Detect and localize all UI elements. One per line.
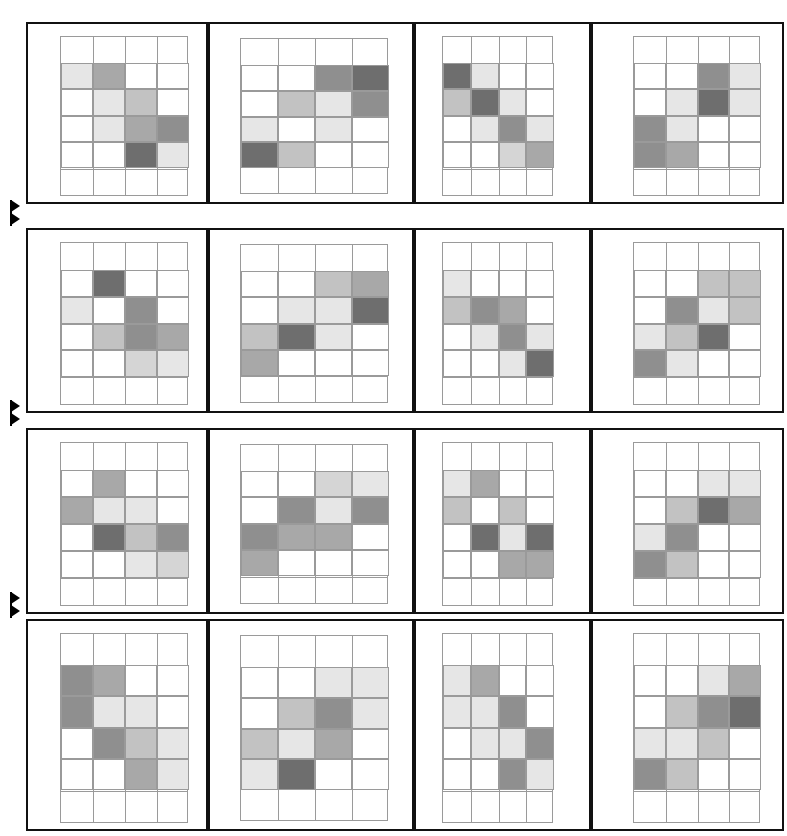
heatmap-cell[interactable]	[125, 297, 157, 324]
heatmap-cell[interactable]	[241, 550, 278, 576]
heatmap-cell[interactable]	[125, 63, 157, 89]
heatmap-cell[interactable]	[241, 524, 278, 550]
heatmap-cell[interactable]	[61, 116, 93, 142]
heatmap-cell[interactable]	[315, 297, 352, 323]
heatmap-cell[interactable]	[125, 350, 157, 377]
panel-r1c3[interactable]	[414, 22, 591, 204]
heatmap-cell[interactable]	[241, 471, 278, 497]
heatmap-cell[interactable]	[61, 759, 93, 790]
heatmap-cell[interactable]	[471, 551, 499, 578]
panel-r2c3[interactable]	[414, 228, 591, 413]
heatmap-cell[interactable]	[471, 497, 499, 524]
heatmap-cell[interactable]	[499, 116, 527, 142]
heatmap-cell[interactable]	[499, 728, 527, 759]
heatmap-cell[interactable]	[666, 551, 698, 578]
heatmap-cell[interactable]	[666, 89, 698, 115]
heatmap-cell[interactable]	[93, 696, 125, 727]
heatmap-cell[interactable]	[125, 728, 157, 759]
heatmap-cell[interactable]	[634, 116, 666, 142]
heatmap-cell[interactable]	[125, 116, 157, 142]
heatmap-cell[interactable]	[443, 350, 471, 377]
heatmap-cell[interactable]	[241, 497, 278, 523]
panel-r1c2[interactable]	[208, 22, 414, 204]
heatmap-cell[interactable]	[157, 350, 189, 377]
heatmap-cell[interactable]	[666, 142, 698, 168]
heatmap-cell[interactable]	[443, 63, 471, 89]
heatmap-cell[interactable]	[352, 91, 389, 117]
heatmap-cell[interactable]	[157, 116, 189, 142]
heatmap-cell[interactable]	[729, 270, 761, 297]
heatmap-cell[interactable]	[352, 667, 389, 698]
heatmap-cell[interactable]	[61, 728, 93, 759]
heatmap-cell[interactable]	[499, 665, 527, 696]
heatmap-cell[interactable]	[471, 63, 499, 89]
heatmap-cell[interactable]	[352, 271, 389, 297]
heatmap-cell[interactable]	[157, 665, 189, 696]
heatmap-cell[interactable]	[729, 524, 761, 551]
heatmap-cell[interactable]	[157, 551, 189, 578]
heatmap-cell[interactable]	[352, 471, 389, 497]
heatmap-cell[interactable]	[278, 729, 315, 760]
heatmap-cell[interactable]	[443, 551, 471, 578]
heatmap-cell[interactable]	[499, 324, 527, 351]
heatmap-cell[interactable]	[61, 551, 93, 578]
heatmap-cell[interactable]	[278, 324, 315, 350]
heatmap-cell[interactable]	[666, 759, 698, 790]
heatmap-cell[interactable]	[352, 524, 389, 550]
heatmap-cell[interactable]	[61, 497, 93, 524]
heatmap-cell[interactable]	[666, 728, 698, 759]
heatmap-cell[interactable]	[241, 117, 278, 143]
heatmap-cell[interactable]	[315, 65, 352, 91]
panel-r3c4[interactable]	[591, 428, 784, 614]
heatmap-cell[interactable]	[125, 470, 157, 497]
heatmap-cell[interactable]	[125, 89, 157, 115]
heatmap-cell[interactable]	[443, 524, 471, 551]
heatmap-cell[interactable]	[698, 696, 730, 727]
heatmap-cell[interactable]	[278, 524, 315, 550]
heatmap-cell[interactable]	[61, 665, 93, 696]
heatmap-cell[interactable]	[157, 89, 189, 115]
heatmap-cell[interactable]	[315, 497, 352, 523]
heatmap-cell[interactable]	[93, 350, 125, 377]
heatmap-cell[interactable]	[315, 91, 352, 117]
heatmap-cell[interactable]	[61, 89, 93, 115]
heatmap-cell[interactable]	[634, 470, 666, 497]
heatmap-cell[interactable]	[352, 324, 389, 350]
heatmap-cell[interactable]	[634, 350, 666, 377]
heatmap-cell[interactable]	[157, 728, 189, 759]
heatmap-cell[interactable]	[352, 729, 389, 760]
heatmap-cell[interactable]	[93, 297, 125, 324]
heatmap-cell[interactable]	[499, 270, 527, 297]
heatmap-cell[interactable]	[471, 270, 499, 297]
heatmap-cell[interactable]	[666, 63, 698, 89]
heatmap-cell[interactable]	[241, 729, 278, 760]
heatmap-cell[interactable]	[125, 524, 157, 551]
heatmap-cell[interactable]	[729, 324, 761, 351]
heatmap-cell[interactable]	[157, 142, 189, 168]
heatmap-cell[interactable]	[352, 550, 389, 576]
heatmap-cell[interactable]	[526, 696, 554, 727]
heatmap-cell[interactable]	[698, 759, 730, 790]
panel-r4c4[interactable]	[591, 619, 784, 831]
heatmap-cell[interactable]	[125, 665, 157, 696]
heatmap-cell[interactable]	[278, 297, 315, 323]
heatmap-cell[interactable]	[729, 116, 761, 142]
heatmap-cell[interactable]	[666, 116, 698, 142]
heatmap-cell[interactable]	[698, 551, 730, 578]
heatmap-cell[interactable]	[278, 667, 315, 698]
heatmap-cell[interactable]	[315, 759, 352, 790]
heatmap-cell[interactable]	[471, 142, 499, 168]
heatmap-cell[interactable]	[526, 297, 554, 324]
heatmap-cell[interactable]	[666, 297, 698, 324]
heatmap-cell[interactable]	[471, 116, 499, 142]
heatmap-cell[interactable]	[352, 350, 389, 376]
heatmap-cell[interactable]	[61, 270, 93, 297]
heatmap-cell[interactable]	[499, 696, 527, 727]
heatmap-cell[interactable]	[443, 497, 471, 524]
heatmap-cell[interactable]	[634, 270, 666, 297]
heatmap-cell[interactable]	[443, 665, 471, 696]
heatmap-cell[interactable]	[729, 63, 761, 89]
heatmap-cell[interactable]	[125, 142, 157, 168]
heatmap-cell[interactable]	[526, 728, 554, 759]
heatmap-cell[interactable]	[278, 117, 315, 143]
